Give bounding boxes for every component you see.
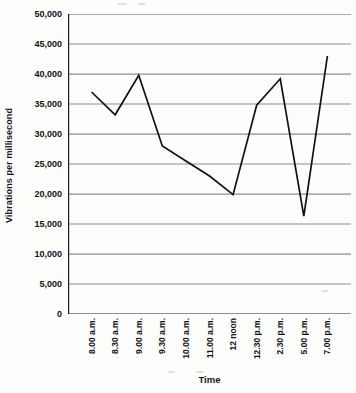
x-tick-label: 8.30 a.m.	[110, 318, 120, 354]
gridlines	[69, 14, 351, 314]
x-tick-label: 11.00 a.m.	[205, 318, 215, 358]
x-tick-label: 5.00 p.m.	[299, 318, 309, 354]
scan-artifact	[118, 3, 127, 5]
x-tick-label: 7.00 p.m.	[322, 318, 332, 354]
y-tick-label: 10,000	[34, 249, 62, 259]
scan-artifact	[196, 371, 204, 373]
plot-area	[68, 14, 351, 314]
y-tick-label: 25,000	[34, 159, 62, 169]
line-chart-svg	[68, 14, 351, 314]
x-tick-label: 2.30 p.m.	[275, 318, 285, 354]
y-tick-label: 20,000	[34, 189, 62, 199]
y-tick-label: 15,000	[34, 219, 62, 229]
y-tick-label: 5,000	[39, 279, 62, 289]
y-tick-label: 40,000	[34, 69, 62, 79]
x-tick-label: 8.00 a.m.	[87, 318, 97, 354]
y-tick-label: 45,000	[34, 39, 62, 49]
y-axis-tick-labels: 05,00010,00015,00020,00025,00030,00035,0…	[18, 0, 66, 330]
x-tick-label: 12 noon	[228, 318, 238, 351]
data-series-line	[92, 56, 328, 216]
chart-figure: Vibrations per millisecond 05,00010,0001…	[0, 0, 356, 393]
y-tick-label: 50,000	[34, 9, 62, 19]
x-axis-tick-labels: 8.00 a.m.8.30 a.m.9.00 a.m.9.30 a.m.10.0…	[68, 318, 351, 374]
scan-artifact	[168, 371, 175, 373]
y-tick-label: 30,000	[34, 129, 62, 139]
x-axis-title: Time	[68, 374, 351, 385]
y-tick-label: 0	[57, 309, 62, 319]
scan-artifact	[322, 290, 328, 292]
y-axis-title-text: Vibrations per millisecond	[4, 108, 14, 223]
y-axis-title: Vibrations per millisecond	[0, 0, 18, 330]
scan-artifact	[138, 3, 145, 5]
x-tick-label: 9.00 a.m.	[134, 318, 144, 354]
x-tick-label: 9.30 a.m.	[157, 318, 167, 354]
x-tick-label: 10.00 a.m.	[181, 318, 191, 359]
x-tick-label: 12.30 p.m.	[252, 318, 262, 359]
y-tick-label: 35,000	[34, 99, 62, 109]
